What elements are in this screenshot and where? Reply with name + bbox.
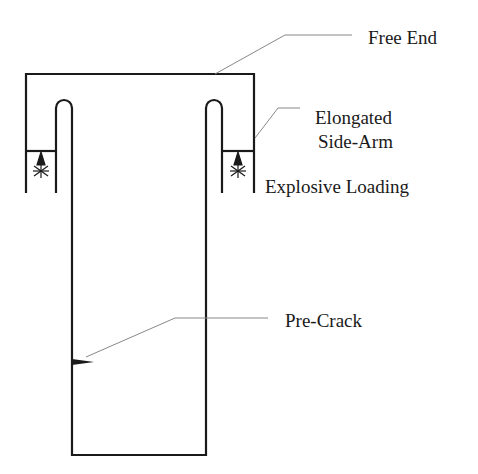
pre-crack-notch [72, 359, 94, 365]
label-side-arm-line2: Side-Arm [318, 132, 393, 152]
specimen-diagram [0, 0, 478, 474]
leader-free-end [215, 35, 352, 74]
explosive-charge-icon [33, 152, 49, 178]
leader-pre-crack [86, 318, 268, 357]
slots-and-body [56, 100, 222, 455]
label-explosive-loading: Explosive Loading [265, 177, 409, 197]
label-side-arm-line1: Elongated [315, 108, 392, 128]
leader-side-arm [255, 108, 300, 138]
specimen-outline [26, 74, 254, 455]
label-pre-crack: Pre-Crack [285, 311, 362, 331]
label-free-end: Free End [368, 28, 437, 48]
outer-edge [26, 74, 254, 193]
explosive-charge-icon [230, 152, 246, 178]
